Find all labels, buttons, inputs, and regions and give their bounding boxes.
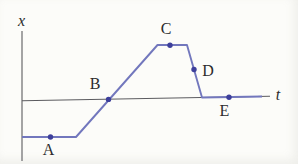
position-time-graph: ABCDE x t: [0, 0, 298, 164]
point-B-dot: [106, 97, 111, 102]
point-A-label: A: [43, 141, 55, 158]
point-C-label: C: [161, 20, 172, 37]
x-axis-label: x: [17, 12, 25, 29]
point-A-dot: [48, 134, 53, 139]
point-D-label: D: [202, 62, 214, 79]
t-axis-label: t: [276, 86, 281, 103]
point-C-dot: [167, 43, 172, 48]
position-curve: [22, 45, 262, 137]
point-E-dot: [226, 95, 231, 100]
point-E-label: E: [220, 102, 230, 119]
point-B-label: B: [90, 75, 101, 92]
graph-canvas: ABCDE x t: [0, 0, 298, 164]
point-D-dot: [191, 67, 196, 72]
